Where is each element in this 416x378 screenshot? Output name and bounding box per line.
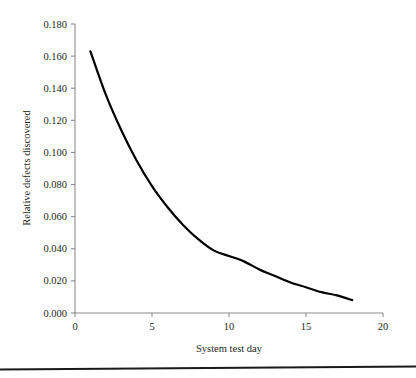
x-tick-label: 15 [301,321,312,332]
y-tick-label: 0.040 [43,243,67,254]
y-tick-label: 0.100 [43,147,67,158]
x-tick-label: 5 [149,321,154,332]
y-tick-label: 0.020 [43,275,67,286]
defect-discovery-chart: 0.0000.0200.0400.0600.0800.1000.1200.140… [0,0,416,378]
y-tick-label: 0.180 [43,19,67,30]
x-tick-label: 0 [72,321,77,332]
x-axis-title: System test day [196,343,263,354]
x-tick-label: 10 [224,321,235,332]
y-tick-label: 0.120 [43,115,67,126]
y-tick-label: 0.000 [43,308,67,319]
x-tick-label: 20 [378,321,389,332]
y-tick-label: 0.080 [43,179,67,190]
y-tick-label: 0.160 [43,51,67,62]
figure-container: 0.0000.0200.0400.0600.0800.1000.1200.140… [0,0,416,378]
y-tick-label: 0.140 [43,83,67,94]
y-axis-title: Relative defects discovered [21,110,32,226]
y-tick-label: 0.060 [43,211,67,222]
